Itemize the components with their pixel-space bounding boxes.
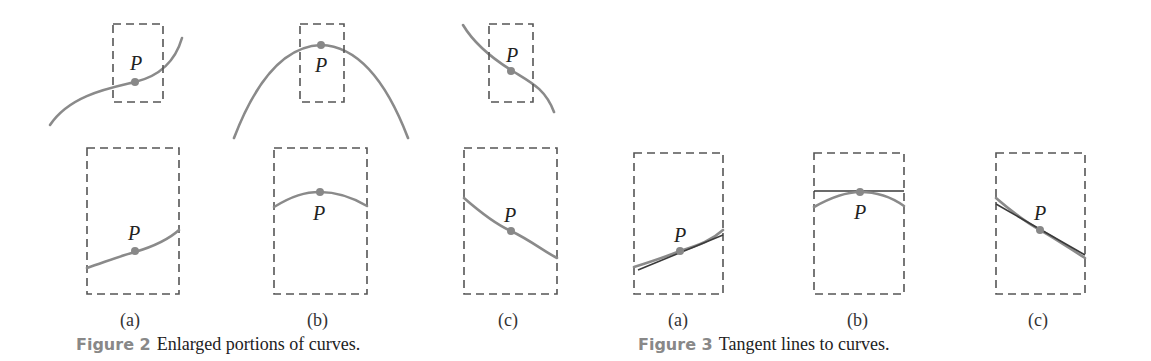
fig3-panel-a: P (a): [634, 153, 723, 331]
fig2-top-b: P: [234, 24, 408, 138]
fig3-panel-b: P (b): [814, 153, 904, 331]
figure3-number: Figure 3: [638, 335, 713, 354]
svg-text:(b): (b): [847, 310, 868, 331]
svg-text:(a): (a): [668, 310, 688, 331]
figure3-caption: Figure 3Tangent lines to curves.: [638, 334, 889, 355]
svg-text:(c): (c): [498, 310, 518, 331]
figure2-caption-text: Enlarged portions of curves.: [157, 334, 361, 354]
figures-canvas: P P P P (a) P (b) P (c) P: [0, 0, 1151, 361]
svg-text:P: P: [314, 54, 327, 76]
figure2-number: Figure 2: [76, 335, 151, 354]
figure2-caption: Figure 2Enlarged portions of curves.: [76, 334, 360, 355]
fig2-panel-a: P (a): [87, 148, 179, 331]
fig3-panel-c: P (c): [996, 153, 1085, 331]
svg-text:P: P: [503, 204, 516, 226]
svg-text:(a): (a): [120, 310, 140, 331]
figure3-caption-text: Tangent lines to curves.: [719, 334, 890, 354]
fig2-top-a: P: [50, 24, 182, 125]
svg-text:P: P: [312, 202, 325, 224]
svg-text:P: P: [673, 224, 686, 246]
svg-text:P: P: [1033, 202, 1046, 224]
svg-text:(b): (b): [307, 310, 328, 331]
svg-text:P: P: [129, 52, 142, 74]
fig2-panel-b: P (b): [274, 148, 367, 331]
svg-text:P: P: [853, 201, 866, 223]
fig2-top-c: P: [463, 24, 554, 112]
fig2-panel-c: P (c): [464, 148, 557, 331]
svg-text:(c): (c): [1028, 310, 1048, 331]
svg-text:P: P: [505, 44, 518, 66]
svg-text:P: P: [127, 222, 140, 244]
